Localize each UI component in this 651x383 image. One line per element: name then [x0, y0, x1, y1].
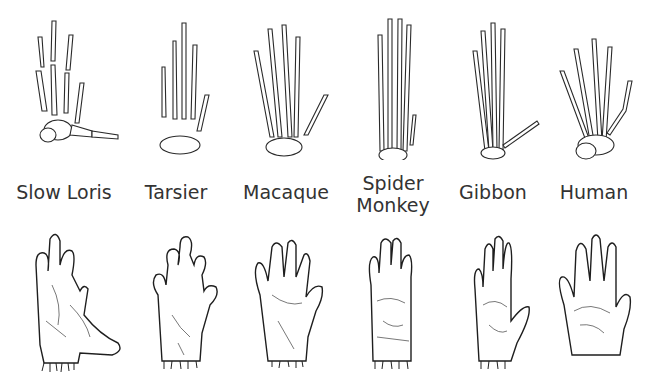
species-spider-monkey: Spider Monkey: [335, 0, 445, 383]
slow-loris-hand-illustration: [0, 225, 130, 375]
tarsier-skeleton-illustration: [120, 15, 230, 160]
gibbon-skeleton-illustration: [443, 15, 553, 160]
spider-monkey-hand-illustration: [335, 225, 445, 375]
species-macaque: Macaque: [228, 0, 338, 383]
species-label-slow-loris: Slow Loris: [4, 181, 124, 203]
species-tarsier: Tarsier: [120, 0, 230, 383]
tarsier-hand-illustration: [120, 225, 230, 375]
gibbon-hand-illustration: [443, 225, 553, 375]
macaque-hand-illustration: [228, 225, 338, 375]
species-label-human: Human: [534, 181, 651, 203]
slow-loris-skeleton-illustration: [0, 15, 130, 160]
species-label-tarsier: Tarsier: [116, 181, 236, 203]
spider-monkey-skeleton-illustration: [335, 15, 445, 160]
species-human: Human: [550, 0, 651, 383]
macaque-skeleton-illustration: [228, 15, 338, 160]
human-skeleton-illustration: [550, 15, 651, 160]
species-label-macaque: Macaque: [226, 181, 346, 203]
species-slow-loris: Slow Loris: [0, 0, 130, 383]
human-hand-illustration: [550, 225, 651, 375]
